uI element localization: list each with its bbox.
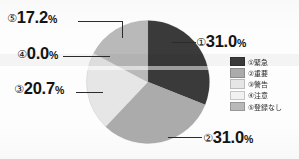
legend-label-3: ③警告 bbox=[248, 79, 268, 89]
leader-line-two bbox=[168, 137, 202, 138]
slice-label-five-value: 17.2 bbox=[17, 8, 48, 26]
legend-item-4: ④注意 bbox=[230, 91, 282, 100]
slice-label-two-percent: % bbox=[244, 133, 253, 145]
legend-swatch-1 bbox=[230, 57, 245, 67]
pie-chart-figure: ⑤17.2% ④0.0% ③20.7% ①31.0% ②31.0% ①緊急②重要… bbox=[0, 0, 299, 159]
leader-line-one bbox=[172, 42, 196, 43]
legend-swatch-2 bbox=[230, 68, 245, 78]
legend-item-1: ①緊急 bbox=[230, 57, 282, 66]
legend-label-4: ④注意 bbox=[248, 90, 268, 100]
slice-label-four-value: 0.0 bbox=[27, 44, 49, 62]
legend-label-2: ②重要 bbox=[248, 68, 268, 78]
slice-label-one-percent: % bbox=[237, 37, 246, 49]
slice-label-five-index: ⑤ bbox=[7, 12, 17, 24]
legend-item-3: ③警告 bbox=[230, 80, 282, 89]
pie-slices-svg bbox=[86, 20, 210, 144]
pie-chart bbox=[86, 20, 210, 144]
legend-swatch-5 bbox=[230, 102, 245, 112]
legend-label-5: ⑤登録なし bbox=[248, 102, 281, 112]
slice-label-two-index: ② bbox=[203, 132, 213, 144]
slice-label-three: ③20.7% bbox=[14, 79, 64, 98]
legend-swatch-4 bbox=[230, 91, 245, 101]
legend-swatch-3 bbox=[230, 79, 245, 89]
slice-label-three-value: 20.7 bbox=[24, 79, 55, 97]
slice-label-four-percent: % bbox=[49, 49, 58, 61]
slice-label-three-index: ③ bbox=[14, 83, 24, 95]
leader-line-five-vertical bbox=[122, 21, 123, 38]
slice-label-one-value: 31.0 bbox=[206, 32, 237, 50]
leader-line-five-horizontal bbox=[78, 21, 123, 22]
legend-item-5: ⑤登録なし bbox=[230, 102, 282, 111]
legend-item-2: ②重要 bbox=[230, 68, 282, 77]
slice-label-four-index: ④ bbox=[17, 48, 27, 60]
slice-label-three-percent: % bbox=[55, 84, 64, 96]
slice-label-one: ①31.0% bbox=[196, 32, 246, 51]
slice-label-two: ②31.0% bbox=[203, 128, 253, 147]
slice-label-one-index: ① bbox=[196, 36, 206, 48]
chart-legend: ①緊急②重要③警告④注意⑤登録なし bbox=[230, 57, 282, 111]
leader-line-four bbox=[63, 56, 110, 57]
slice-label-four: ④0.0% bbox=[17, 44, 58, 63]
slice-label-five: ⑤17.2% bbox=[7, 8, 57, 27]
leader-line-three bbox=[76, 92, 103, 93]
legend-label-1: ①緊急 bbox=[248, 57, 268, 67]
slice-label-five-percent: % bbox=[48, 13, 57, 25]
slice-label-two-value: 31.0 bbox=[213, 128, 244, 146]
